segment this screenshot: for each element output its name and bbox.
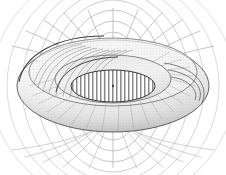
figure-container: Magnetic field of a toroidal coil bbox=[0, 0, 226, 175]
toroidal-field-diagram: Magnetic field of a toroidal coil bbox=[0, 0, 226, 175]
